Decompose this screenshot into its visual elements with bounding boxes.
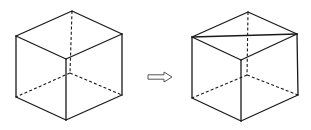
- hidden-edge: [247, 12, 248, 75]
- left-cube: [16, 11, 122, 120]
- visible-edge: [248, 12, 297, 34]
- hidden-edge: [192, 75, 247, 98]
- right-cube-with-diagonal: [192, 12, 298, 121]
- visible-edge: [192, 98, 241, 121]
- visible-edge: [192, 12, 248, 37]
- visible-edge: [66, 95, 122, 120]
- visible-edge: [66, 34, 122, 59]
- hidden-edge: [70, 11, 72, 73]
- visible-edge: [16, 36, 66, 59]
- visible-edge: [241, 34, 297, 60]
- arrow-shape: [148, 72, 172, 82]
- visible-edge: [16, 97, 66, 120]
- diagonal-edge: [192, 34, 297, 37]
- visible-edge: [72, 11, 122, 34]
- transform-arrow-icon: [148, 72, 172, 82]
- hidden-edge: [247, 75, 298, 95]
- hidden-edge: [16, 73, 70, 97]
- diagram-canvas: [0, 0, 311, 130]
- hidden-edge: [70, 73, 122, 95]
- figure: [0, 0, 311, 130]
- visible-edge: [297, 34, 298, 95]
- visible-edge: [192, 37, 241, 60]
- visible-edge: [16, 11, 72, 36]
- visible-edge: [241, 95, 298, 121]
